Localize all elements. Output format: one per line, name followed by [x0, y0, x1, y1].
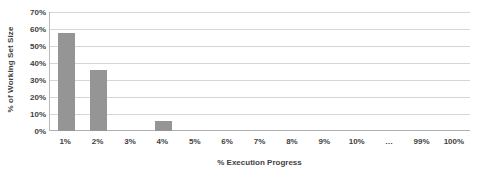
x-axis-tick-labels: 1%2%3%4%5%6%7%8%9%10%…99%100% — [49, 134, 470, 150]
y-axis-tick-label: 70% — [20, 8, 46, 17]
x-axis-tick-label: 8% — [276, 134, 308, 150]
bar-slot — [147, 12, 179, 131]
x-axis-tick-label: 6% — [211, 134, 243, 150]
x-axis-tick-label: 100% — [438, 134, 470, 150]
y-axis-title: % of Working Set Size — [0, 0, 22, 138]
plot-area — [49, 12, 470, 131]
x-axis-tick-label: 1% — [49, 134, 81, 150]
bar — [155, 121, 172, 131]
bar-slot — [244, 12, 276, 131]
x-axis-tick-label: 5% — [179, 134, 211, 150]
y-axis-title-label: % of Working Set Size — [7, 26, 16, 112]
bar-slot — [341, 12, 373, 131]
y-axis-tick-label: 20% — [20, 93, 46, 102]
y-axis-tick-label: 50% — [20, 42, 46, 51]
bar-slot — [373, 12, 405, 131]
bar-slot — [309, 12, 341, 131]
x-axis-tick-label: 7% — [243, 134, 275, 150]
x-axis-tick-label: 10% — [341, 134, 373, 150]
x-axis-tick-label: … — [373, 134, 405, 150]
y-axis-tick-label: 0% — [20, 127, 46, 136]
x-axis-title: % Execution Progress — [49, 158, 470, 167]
y-axis-tick-label: 30% — [20, 76, 46, 85]
x-axis-tick-label: 3% — [114, 134, 146, 150]
y-axis-tick-labels: 0%10%20%30%40%50%60%70% — [20, 12, 46, 131]
x-axis-tick-label: 2% — [81, 134, 113, 150]
bars — [50, 12, 470, 131]
y-axis-tick-label: 10% — [20, 110, 46, 119]
bar-slot — [212, 12, 244, 131]
x-axis-tick-label: 4% — [146, 134, 178, 150]
x-axis-tick-label: 9% — [308, 134, 340, 150]
bar-slot — [50, 12, 82, 131]
bar-slot — [276, 12, 308, 131]
bar-slot — [405, 12, 437, 131]
y-axis-tick-label: 40% — [20, 59, 46, 68]
bar-chart: % of Working Set Size 0%10%20%30%40%50%6… — [0, 0, 482, 183]
x-axis-tick-label: 99% — [405, 134, 437, 150]
bar-slot — [438, 12, 470, 131]
bar-slot — [179, 12, 211, 131]
y-axis-tick-label: 60% — [20, 25, 46, 34]
bar — [58, 33, 75, 131]
bar-slot — [115, 12, 147, 131]
bar — [90, 70, 107, 131]
bar-slot — [82, 12, 114, 131]
